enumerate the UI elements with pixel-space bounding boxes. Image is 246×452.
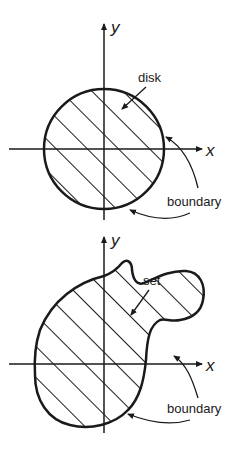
- y-axis-label: y: [110, 231, 121, 250]
- top-diagram: y x disk boundary: [9, 18, 222, 220]
- y-axis-label: y: [110, 18, 121, 37]
- boundary-label: boundary: [167, 194, 222, 209]
- boundary-label: boundary: [167, 401, 222, 416]
- x-axis-label: x: [205, 356, 215, 375]
- boundary-pointer-arrow-upper: [166, 137, 198, 188]
- disk-hatching: [40, 85, 170, 215]
- set-label: set: [143, 273, 161, 288]
- disk-label: disk: [138, 70, 162, 85]
- boundary-pointer-arrow-upper: [174, 356, 198, 398]
- x-axis-label: x: [205, 141, 215, 160]
- diagram-canvas: y x disk boundary y x set boundary: [0, 0, 246, 452]
- bottom-diagram: y x set boundary: [9, 231, 222, 435]
- boundary-pointer-arrow-lower: [130, 210, 190, 218]
